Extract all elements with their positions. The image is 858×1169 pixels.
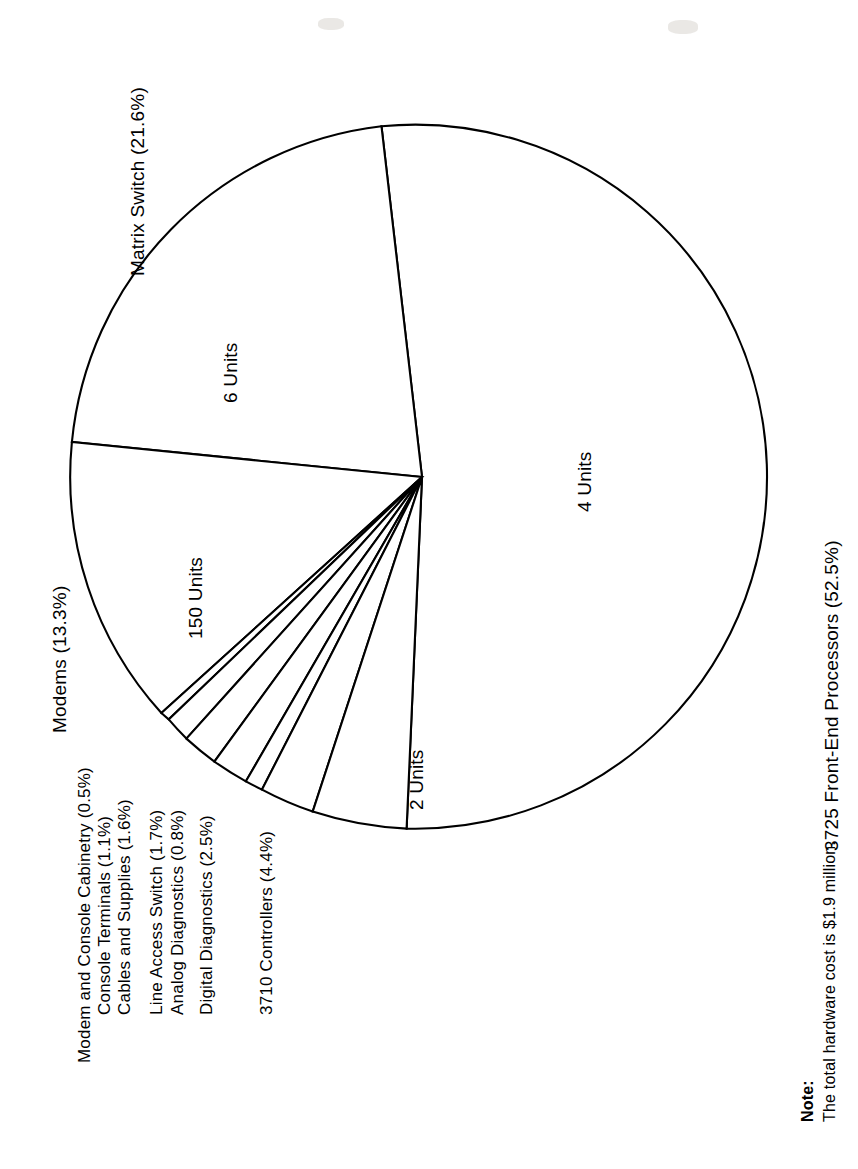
slice-label-analog-diagnostics: Analog Diagnostics (0.8%) — [169, 810, 186, 1015]
slice-label-matrix-switch: Matrix Switch (21.6%) — [128, 87, 147, 276]
note-title: Note: — [800, 1080, 816, 1122]
slice-matrix-switch[interactable] — [72, 126, 422, 477]
inner-label-150-units: 150 Units — [186, 557, 205, 639]
slice-label-3710-controllers: 3710 Controllers (4.4%) — [258, 831, 275, 1015]
slice-label-digital-diagnostics: Digital Diagnostics (2.5%) — [198, 815, 215, 1015]
slice-label-console-terminals: Console Terminals (1.1%) — [96, 816, 113, 1015]
slice-label-cables-and-supplies: Cables and Supplies (1.6%) — [116, 799, 133, 1015]
inner-label-4-units: 4 Units — [575, 451, 594, 512]
slice-label-line-access-switch: Line Access Switch (1.7%) — [148, 810, 165, 1015]
slice-label-modems: Modems (13.3%) — [50, 586, 69, 733]
pie-slices — [70, 125, 767, 829]
inner-label-6-units: 6 Units — [221, 342, 240, 403]
inner-label-2-units: 2 Units — [407, 749, 426, 810]
note-body: The total hardware cost is $1.9 million. — [822, 841, 838, 1122]
slice-label-modem-and-console-cabinetry: Modem and Console Cabinetry (0.5%) — [76, 767, 93, 1063]
slice-label-front-end-processors: 3725 Front-End Processors (52.5%) — [822, 540, 841, 851]
pie-chart-figure: Matrix Switch (21.6%) Modems (13.3%) 372… — [0, 0, 858, 1169]
